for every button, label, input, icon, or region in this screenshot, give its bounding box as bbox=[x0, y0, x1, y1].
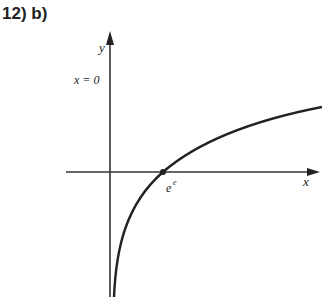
intercept-label: e bbox=[166, 181, 172, 195]
x-axis-arrow-icon bbox=[307, 168, 320, 176]
log-curve bbox=[114, 107, 322, 297]
intercept-superscript: e bbox=[173, 178, 177, 187]
asymptote-label: x = 0 bbox=[73, 73, 99, 87]
x-axis-label: x bbox=[302, 174, 309, 189]
graph: y x = 0 e e x bbox=[0, 0, 322, 297]
intercept-point bbox=[160, 169, 166, 175]
y-axis-arrow-icon bbox=[106, 31, 114, 45]
y-axis-label: y bbox=[97, 40, 105, 55]
